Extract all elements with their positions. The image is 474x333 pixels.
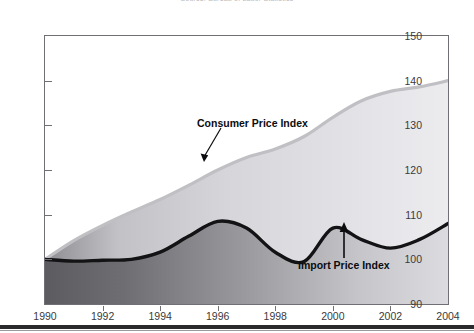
y-tick-mark	[45, 81, 52, 82]
header-strip: Source: Bureau of Labor Statistics	[0, 0, 474, 9]
y-axis	[0, 0, 44, 333]
source-note: Source: Bureau of Labor Statistics	[0, 0, 474, 2]
y-tick-mark	[45, 125, 52, 126]
y-tick-label: 110	[405, 209, 422, 221]
y-tick-mark	[45, 259, 52, 260]
x-tick-label: 1990	[33, 310, 56, 322]
bottom-rule	[0, 325, 474, 329]
y-tick-label: 140	[404, 75, 422, 87]
x-tick-label: 1996	[206, 310, 229, 322]
y-tick-label: 100	[404, 253, 422, 265]
y-tick-label: 90	[410, 298, 422, 310]
y-tick-label: 150	[404, 30, 422, 42]
x-tick-mark	[160, 306, 161, 311]
x-tick-label: 1998	[264, 310, 287, 322]
x-tick-label: 2004	[436, 310, 459, 322]
annotation-import-price-index: Import Price Index	[298, 259, 390, 271]
cpi-callout-arrow	[201, 128, 221, 162]
x-tick-label: 1992	[91, 310, 114, 322]
y-tick-label: 130	[404, 119, 422, 131]
x-tick-label: 2000	[321, 310, 344, 322]
y-tick-label: 120	[404, 164, 422, 176]
bottom-rule-thin	[0, 330, 474, 331]
annotation-consumer-price-index: Consumer Price Index	[197, 117, 308, 129]
y-tick-mark	[45, 215, 52, 216]
x-tick-label: 2002	[379, 310, 402, 322]
x-tick-mark	[218, 306, 219, 311]
x-tick-mark	[275, 306, 276, 311]
x-tick-mark	[390, 306, 391, 311]
x-tick-label: 1994	[148, 310, 171, 322]
price-index-chart: Source: Bureau of Labor Statistics	[0, 0, 474, 333]
x-tick-mark	[333, 306, 334, 311]
x-tick-mark	[103, 306, 104, 311]
y-tick-mark	[45, 170, 52, 171]
